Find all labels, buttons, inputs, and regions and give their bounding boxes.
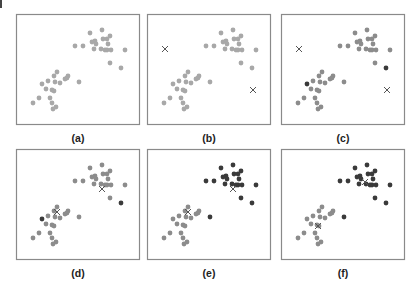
data-point (240, 183, 245, 188)
data-point (183, 89, 188, 94)
data-point (189, 81, 194, 86)
data-point (296, 236, 301, 241)
data-point (177, 79, 182, 84)
data-point (52, 74, 57, 79)
data-point (223, 47, 228, 52)
data-point (323, 216, 328, 221)
scatter-plot-e (147, 149, 271, 260)
data-point (46, 79, 51, 84)
data-point (183, 224, 188, 229)
data-point (31, 236, 36, 241)
data-point (179, 231, 184, 236)
data-point (108, 61, 113, 66)
data-point (323, 81, 328, 86)
data-point (388, 183, 393, 188)
data-point (88, 31, 93, 36)
data-point (46, 214, 51, 219)
data-point (302, 231, 307, 236)
data-point (175, 87, 180, 92)
data-point (184, 215, 189, 220)
data-point (48, 96, 53, 101)
data-point (162, 101, 167, 106)
data-point (239, 196, 244, 201)
data-point (94, 177, 99, 182)
data-point (353, 166, 358, 171)
data-point (212, 44, 217, 49)
data-point (357, 47, 362, 52)
scatter-plot-b (147, 14, 271, 125)
data-point (40, 82, 45, 87)
data-point (223, 182, 228, 187)
data-point (250, 201, 255, 206)
data-point (365, 163, 370, 168)
data-point (105, 172, 110, 177)
data-point (92, 182, 97, 187)
data-point (106, 42, 111, 47)
data-point (81, 44, 86, 49)
data-point (123, 48, 128, 53)
data-point (368, 48, 373, 53)
data-point (48, 231, 53, 236)
data-point (317, 74, 322, 79)
data-point (171, 82, 176, 87)
data-point (175, 222, 180, 227)
data-point (50, 236, 55, 241)
panel-a (16, 14, 140, 125)
data-point (186, 205, 191, 210)
data-point (50, 101, 55, 106)
data-point (373, 61, 378, 66)
data-point (346, 44, 351, 49)
data-point (106, 177, 111, 182)
data-point (254, 183, 259, 188)
data-point (88, 166, 93, 171)
data-point (65, 211, 70, 216)
caption-c: (c) (281, 132, 405, 144)
data-point (182, 107, 187, 112)
data-point (189, 216, 194, 221)
data-point (315, 236, 320, 241)
data-point (317, 89, 322, 94)
data-point (109, 48, 114, 53)
data-point (99, 182, 104, 187)
data-point (219, 31, 224, 36)
data-point (55, 205, 60, 210)
data-point (388, 48, 393, 53)
data-point (51, 107, 56, 112)
data-point (316, 242, 321, 247)
data-point (168, 96, 173, 101)
panel-e (147, 149, 271, 260)
data-point (239, 61, 244, 66)
data-point (234, 48, 239, 53)
data-point (196, 211, 201, 216)
data-point (119, 66, 124, 71)
data-point (305, 82, 310, 87)
data-point (108, 196, 113, 201)
data-point (119, 201, 124, 206)
data-point (318, 215, 323, 220)
data-point (365, 28, 370, 33)
data-point (374, 48, 379, 53)
data-point (58, 216, 63, 221)
data-point (370, 172, 375, 177)
data-point (353, 31, 358, 36)
data-point (317, 209, 322, 214)
data-point (371, 177, 376, 182)
data-point (58, 81, 63, 86)
data-point (311, 79, 316, 84)
data-point (81, 179, 86, 184)
data-point (182, 242, 187, 247)
data-point (225, 42, 230, 47)
data-point (77, 215, 82, 220)
data-point (309, 87, 314, 92)
data-point (305, 217, 310, 222)
data-point (316, 107, 321, 112)
data-point (92, 47, 97, 52)
data-point (237, 177, 242, 182)
data-point (364, 47, 369, 52)
data-point (384, 201, 389, 206)
data-point (196, 76, 201, 81)
data-point (315, 101, 320, 106)
data-point (237, 42, 242, 47)
data-point (318, 80, 323, 85)
data-point (208, 215, 213, 220)
